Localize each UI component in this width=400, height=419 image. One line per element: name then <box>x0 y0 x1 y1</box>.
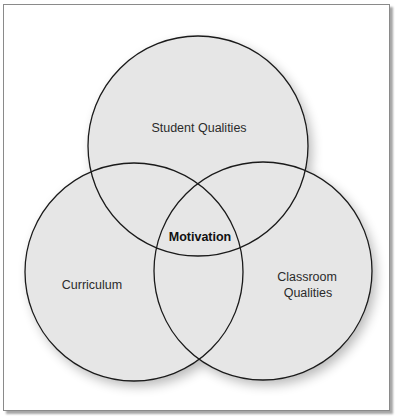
venn-diagram: Student Qualities Curriculum Classroom Q… <box>0 0 400 419</box>
curriculum-label: Curriculum <box>62 278 122 292</box>
venn-fill-group <box>25 36 372 381</box>
classroom-qualities-fill <box>154 162 372 380</box>
student-qualities-label: Student Qualities <box>151 121 246 135</box>
classroom-label-line1: Classroom <box>277 270 337 284</box>
motivation-label: Motivation <box>169 230 232 244</box>
classroom-label-line2: Qualities <box>284 286 333 300</box>
